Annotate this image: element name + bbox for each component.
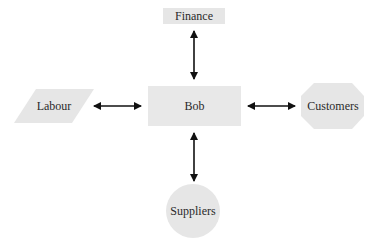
suppliers-label: Suppliers xyxy=(163,205,223,217)
labour-label: Labour xyxy=(22,100,86,112)
customers-label: Customers xyxy=(301,100,365,112)
finance-label: Finance xyxy=(163,10,225,22)
bob-label: Bob xyxy=(148,100,241,112)
